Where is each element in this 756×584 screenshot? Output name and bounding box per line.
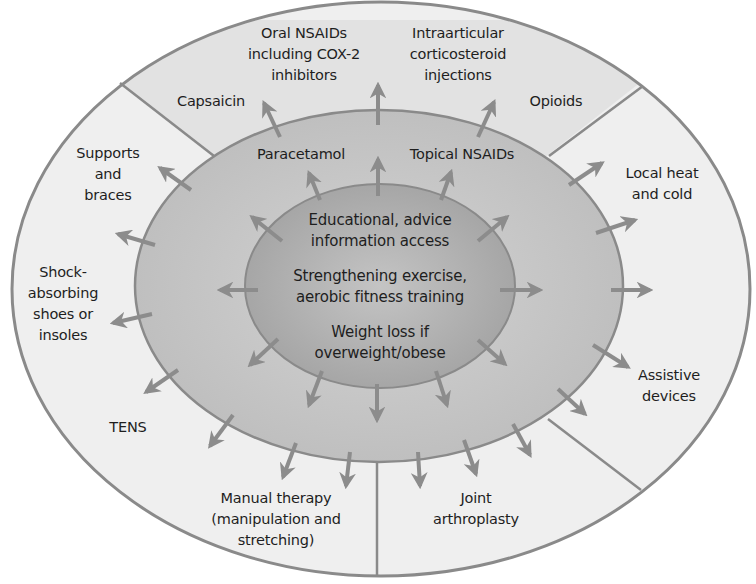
outer-label-joint-arthroplasty: Joint arthroplasty (433, 488, 519, 530)
outer-label-tens: TENS (109, 417, 146, 438)
middle-label-topical-nsaids: Topical NSAIDs (410, 144, 514, 165)
outer-label-assistive-devices: Assistive devices (638, 365, 700, 407)
outer-label-opioids: Opioids (530, 91, 583, 112)
outer-label-oral-nsaids: Oral NSAIDs including COX-2 inhibitors (248, 23, 360, 86)
core-label-education: Educational, advice information access (308, 210, 451, 252)
core-label-weight-loss: Weight loss if overweight/obese (315, 322, 446, 364)
outer-label-manual-therapy: Manual therapy (manipulation and stretch… (211, 488, 340, 551)
outer-label-supports-braces: Supports and braces (76, 143, 139, 206)
middle-label-paracetamol: Paracetamol (257, 144, 345, 165)
outer-label-local-heat-cold: Local heat and cold (626, 163, 699, 205)
core-label-exercise: Strengthening exercise, aerobic fitness … (293, 266, 467, 308)
outer-label-intraarticular-injections: Intraarticular corticosteroid injections (410, 23, 506, 86)
outer-label-shock-absorbing-shoes: Shock- absorbing shoes or insoles (28, 262, 98, 346)
outer-label-capsaicin: Capsaicin (177, 91, 245, 112)
